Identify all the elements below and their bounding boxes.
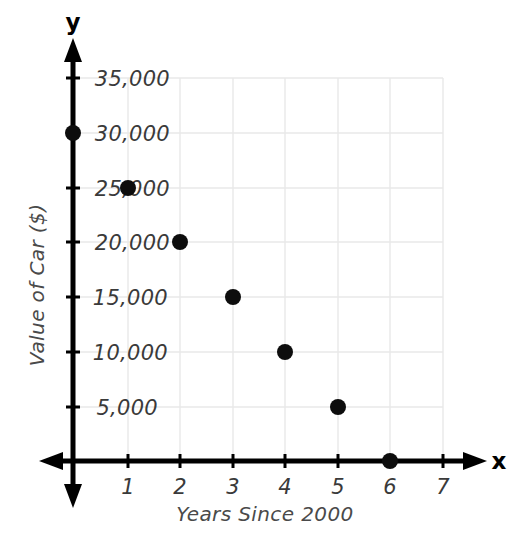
x-axis-title: Years Since 2000 bbox=[176, 502, 353, 526]
y-axis-title: Value of Car ($) bbox=[25, 204, 49, 367]
y-axis bbox=[64, 38, 82, 508]
x-axis-arrow-left bbox=[39, 452, 63, 470]
data-point-0[interactable] bbox=[65, 125, 81, 141]
y-axis-letter: y bbox=[66, 9, 81, 35]
x-tick-label-6: 6 bbox=[383, 475, 397, 499]
x-tick-label-5: 5 bbox=[331, 475, 345, 499]
y-axis-arrow-up bbox=[64, 38, 82, 62]
y-tick-label-5000: 5,000 bbox=[96, 396, 158, 420]
y-axis-tick-labels: 35,000 30,000 25,000 20,000 15,000 10,00… bbox=[93, 67, 170, 420]
scatter-plot: 35,000 30,000 25,000 20,000 15,000 10,00… bbox=[0, 0, 509, 551]
x-tick-label-2: 2 bbox=[173, 475, 187, 499]
y-tick-label-15000: 15,000 bbox=[93, 286, 168, 310]
data-point-6[interactable] bbox=[382, 453, 398, 469]
y-tick-label-35000: 35,000 bbox=[95, 67, 170, 91]
chart-canvas: 35,000 30,000 25,000 20,000 15,000 10,00… bbox=[0, 0, 509, 551]
data-point-3[interactable] bbox=[225, 289, 241, 305]
x-axis-arrow-right bbox=[463, 452, 487, 470]
x-tick-label-4: 4 bbox=[278, 475, 292, 499]
data-point-4[interactable] bbox=[277, 344, 293, 360]
x-tick-label-3: 3 bbox=[226, 475, 240, 499]
data-point-2[interactable] bbox=[172, 234, 188, 250]
y-tick-label-20000: 20,000 bbox=[95, 231, 170, 255]
x-tick-label-1: 1 bbox=[121, 475, 135, 499]
data-point-5[interactable] bbox=[330, 399, 346, 415]
y-axis-arrow-down bbox=[64, 484, 82, 508]
x-axis-letter: x bbox=[492, 448, 507, 474]
x-tick-label-7: 7 bbox=[436, 475, 450, 499]
x-axis bbox=[39, 452, 487, 470]
x-axis-tick-labels: 1 2 3 4 5 6 7 bbox=[121, 475, 450, 499]
y-tick-label-10000: 10,000 bbox=[93, 341, 168, 365]
y-tick-label-30000: 30,000 bbox=[95, 122, 170, 146]
data-point-1[interactable] bbox=[120, 180, 136, 196]
gridlines-vertical bbox=[128, 78, 443, 461]
